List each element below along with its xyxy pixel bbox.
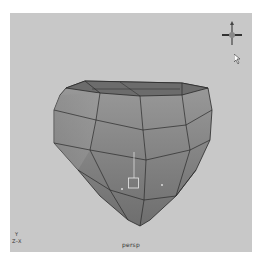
vertex-highlight: [161, 184, 163, 186]
mesh-render[interactable]: [10, 13, 252, 252]
camera-label: persp: [10, 241, 252, 248]
vertex-highlight: [121, 188, 123, 190]
axis-y-label: Y: [15, 231, 18, 237]
mouse-pointer-icon: [234, 54, 242, 64]
3d-viewport[interactable]: Y Z–X persp: [10, 13, 252, 252]
view-compass-icon[interactable]: [220, 21, 244, 47]
